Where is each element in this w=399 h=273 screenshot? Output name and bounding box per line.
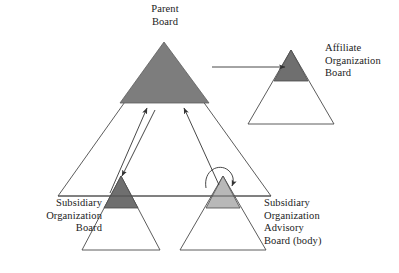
affiliate-board-apex [274,50,308,81]
label-subsidiary-advisory-board: Subsidiary Organization Advisory Board (… [264,197,398,247]
label-affiliate-board: Affiliate Organization Board [325,42,399,80]
affiliate-board-triangle [248,50,334,124]
label-parent-board: Parent Board [118,3,212,28]
parent-board-triangle [120,42,209,103]
diagram-canvas: Parent Board Affiliate Organization Boar… [0,0,399,273]
label-subsidiary-board: Subsidiary Organization Board [2,197,102,235]
